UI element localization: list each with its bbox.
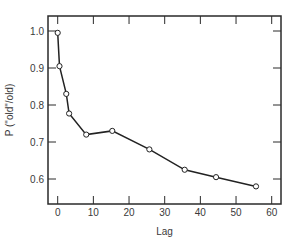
data-point-marker [182, 167, 187, 172]
y-tick-label: 0.8 [30, 100, 44, 111]
data-point-marker [67, 111, 72, 116]
data-point-marker [84, 132, 89, 137]
x-tick-label: 10 [88, 207, 100, 218]
series-line [58, 33, 256, 187]
x-tick-label: 50 [230, 207, 242, 218]
data-point-marker [213, 175, 218, 180]
data-point-marker [57, 64, 62, 69]
line-chart: 0102030405060 0.60.70.80.91.0 Lag P ("ol… [0, 0, 295, 243]
data-point-marker [253, 184, 258, 189]
data-series [55, 30, 259, 189]
x-tick-label: 0 [55, 207, 61, 218]
y-tick-label: 1.0 [30, 26, 44, 37]
x-axis-label: Lag [156, 226, 173, 237]
data-point-marker [64, 91, 69, 96]
data-point-marker [147, 147, 152, 152]
y-tick-label: 0.9 [30, 63, 44, 74]
x-tick-label: 30 [159, 207, 171, 218]
data-point-marker [110, 128, 115, 133]
x-axis-ticks: 0102030405060 [55, 16, 278, 218]
y-tick-label: 0.7 [30, 137, 44, 148]
y-tick-label: 0.6 [30, 174, 44, 185]
data-point-marker [55, 30, 60, 35]
y-axis-label: P ("old"/old) [4, 84, 15, 137]
x-tick-label: 60 [266, 207, 278, 218]
x-tick-label: 20 [123, 207, 135, 218]
plot-frame [48, 16, 281, 204]
x-tick-label: 40 [195, 207, 207, 218]
